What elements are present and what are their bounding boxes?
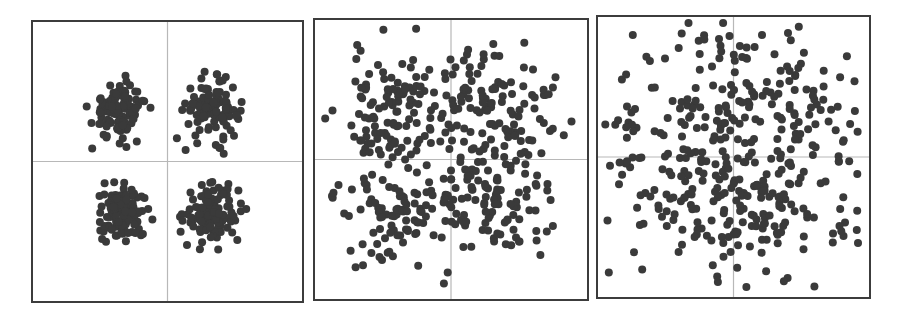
data-point [452,63,460,71]
data-point [122,237,130,245]
data-point [113,194,121,202]
data-point [829,239,837,247]
data-point [531,104,539,112]
data-point [242,205,250,213]
data-point [820,83,828,91]
data-point [214,246,222,254]
data-point [825,118,833,126]
data-point [741,139,749,147]
data-point [208,178,216,186]
data-point [197,218,205,226]
data-point [751,43,759,51]
data-point [212,123,220,131]
data-point [147,104,155,112]
data-point [447,167,455,175]
data-point [732,230,740,238]
data-point [345,212,353,220]
data-point [776,80,784,88]
data-point [839,193,847,201]
data-point [452,210,460,218]
data-point [362,126,370,134]
data-point [96,218,104,226]
data-point [635,154,643,162]
data-point [426,114,434,122]
data-point [457,93,465,101]
data-point [233,111,241,119]
data-point [770,93,778,101]
data-point [440,195,448,203]
data-point [707,237,715,245]
data-point [712,160,720,168]
data-point [132,105,140,113]
data-point [401,197,409,205]
data-point [694,218,702,226]
data-point [678,133,686,141]
data-point [204,191,212,199]
data-point [773,135,781,143]
data-point [568,118,576,126]
data-point [488,85,496,93]
data-point [520,63,528,71]
data-point [351,77,359,85]
data-point [178,106,186,114]
data-point [676,105,684,113]
data-point [357,84,365,92]
data-point [139,230,147,238]
data-point [773,229,781,237]
data-point [177,228,185,236]
data-point [173,134,181,142]
data-point [479,92,487,100]
data-point [189,195,197,203]
data-point [495,52,503,60]
data-point [710,197,718,205]
data-point [124,229,132,237]
data-point [108,103,116,111]
data-point [745,103,753,111]
data-point [130,115,138,123]
panel-overlapping-clusters [313,18,589,301]
data-point [786,180,794,188]
data-point [726,127,734,135]
data-point [845,157,853,165]
data-point [200,112,208,120]
data-point [681,193,689,201]
data-point [697,155,705,163]
data-point [428,205,436,213]
data-point [139,97,147,105]
data-point [536,251,544,259]
data-point [436,138,444,146]
data-point [413,119,421,127]
data-point [447,203,455,211]
data-point [502,125,510,133]
data-point [452,184,460,192]
data-point [447,56,455,64]
data-point [763,170,771,178]
data-point [122,196,130,204]
data-point [207,233,215,241]
data-point [685,114,693,122]
data-point [521,170,529,178]
data-point [179,217,187,225]
data-point [464,46,472,54]
data-point [730,51,738,59]
data-point [696,103,704,111]
data-point [786,105,794,113]
data-point [238,98,246,106]
data-point [533,172,541,180]
data-point [466,63,474,71]
data-point [651,127,659,135]
data-point [404,227,412,235]
data-point [187,214,195,222]
data-point [474,70,482,78]
data-point [220,150,228,158]
data-point [367,249,375,257]
data-point [723,221,731,229]
data-point [508,90,516,98]
data-point [661,153,669,161]
data-point [376,225,384,233]
data-point [820,67,828,75]
data-point [468,183,476,191]
data-point [787,145,795,153]
data-point [689,105,697,113]
data-point [83,102,91,110]
